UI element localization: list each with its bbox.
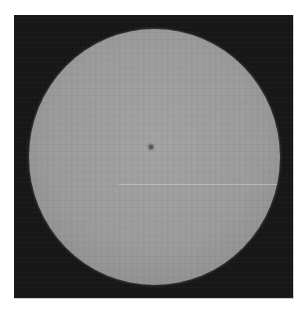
scan-line-artifact bbox=[119, 184, 279, 185]
image-frame bbox=[14, 15, 294, 299]
solar-disk bbox=[29, 29, 280, 285]
sunspot bbox=[149, 145, 153, 149]
